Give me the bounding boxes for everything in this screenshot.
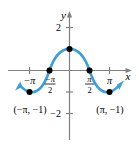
marked-point-left-min [27,89,33,95]
y-tick-label-neg2: −2 [50,108,61,119]
y-axis-arrow-icon [67,11,72,18]
y-tick-label-pos2: 2 [56,22,61,33]
plot-svg: y x 2 −2 −π π −π 2 π 2 (−π, −1) (π, −1) [0,0,139,154]
x-tick-label-half-pi-numerator: π [87,74,92,84]
marked-point-right-min [107,89,113,95]
x-tick-label-neg-half-pi-denominator: 2 [48,85,52,95]
cosine-graph-figure: y x 2 −2 −π π −π 2 π 2 (−π, −1) (π, −1) [0,0,139,154]
marked-point-right-zero [87,68,93,74]
x-tick-label-pi: π [107,75,113,86]
annotation-left-min: (−π, −1) [14,104,47,116]
x-tick-label-neg-half-pi-numerator: −π [45,74,56,84]
annotation-right-min: (π, −1) [96,104,123,116]
x-axis-label: x [125,70,131,82]
marked-point-left-zero [47,68,53,74]
marked-point-max [67,46,73,52]
curve-left-arrow-icon [15,81,22,90]
y-axis-label: y [60,9,66,21]
x-tick-label-half-pi-denominator: 2 [87,85,91,95]
curve-right-arrow-icon [117,81,124,91]
x-tick-label-neg-pi: −π [24,75,37,86]
x-tick-label-neg-half-pi: −π 2 [45,74,56,95]
